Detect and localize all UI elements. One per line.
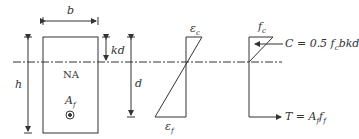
compression-force-label: C = 0.5 fcbkd — [285, 38, 359, 52]
width-label: b — [67, 5, 74, 16]
kd-label: kd — [111, 45, 125, 56]
stress-diagram — [249, 37, 283, 117]
frp-strain-label: εf — [165, 121, 174, 135]
strain-diagram — [155, 37, 202, 117]
concrete-strain-label: εc — [190, 23, 200, 37]
concrete-stress-label: fc — [258, 21, 266, 35]
d-label: d — [135, 78, 142, 89]
reinforcement-area-label: Af — [65, 95, 76, 109]
tension-force-label: T = Afff — [285, 111, 326, 125]
height-label: h — [15, 79, 22, 90]
neutral-axis-label: NA — [63, 70, 79, 80]
